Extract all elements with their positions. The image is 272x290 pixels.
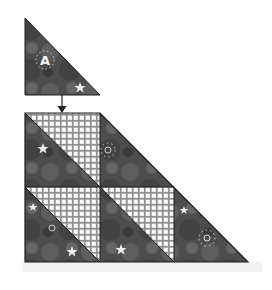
pieced-unit (25, 113, 248, 262)
triangle-piece-a: A (25, 18, 100, 95)
down-arrow-icon (58, 95, 67, 113)
quilt-assembly-diagram: A (0, 0, 272, 290)
ground-shadow (22, 262, 262, 272)
piece-label-a: A (40, 53, 50, 68)
